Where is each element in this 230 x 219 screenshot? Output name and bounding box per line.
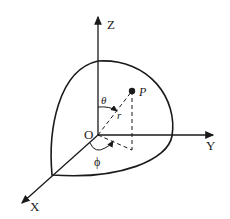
origin-label: O xyxy=(84,127,93,142)
z-axis-label: Z xyxy=(107,17,115,32)
radius-label: r xyxy=(117,109,122,121)
theta-label: θ xyxy=(101,94,107,106)
theta-arc xyxy=(98,107,117,111)
x-axis xyxy=(22,135,98,203)
spherical-coordinates-diagram: Z Y X O P r θ ϕ xyxy=(0,0,230,219)
phi-label: ϕ xyxy=(94,155,100,169)
projection-horizontal xyxy=(98,135,132,150)
y-axis-label: Y xyxy=(206,138,216,153)
x-axis-label: X xyxy=(30,199,40,214)
phi-arc xyxy=(90,141,113,150)
sphere-octant-outline xyxy=(51,61,173,176)
point-p xyxy=(129,88,135,94)
point-label: P xyxy=(138,85,147,99)
